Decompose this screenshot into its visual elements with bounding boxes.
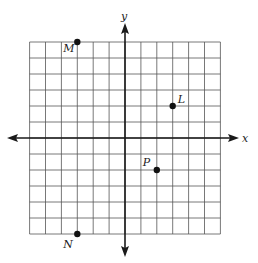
point-label-n: N bbox=[62, 238, 73, 251]
point-n bbox=[74, 231, 80, 237]
point-label-l: L bbox=[177, 93, 185, 106]
y-axis-label: y bbox=[120, 10, 128, 23]
point-p bbox=[154, 167, 160, 173]
point-label-p: P bbox=[142, 156, 151, 169]
point-l bbox=[170, 103, 176, 109]
point-label-m: M bbox=[62, 42, 75, 55]
x-axis-label: x bbox=[242, 132, 249, 145]
point-m bbox=[74, 39, 80, 45]
y-axis: y bbox=[120, 10, 129, 257]
plotted-points: MLPN bbox=[62, 39, 185, 251]
x-axis: x bbox=[7, 132, 249, 145]
coordinate-plane: x y MLPN bbox=[0, 0, 258, 263]
